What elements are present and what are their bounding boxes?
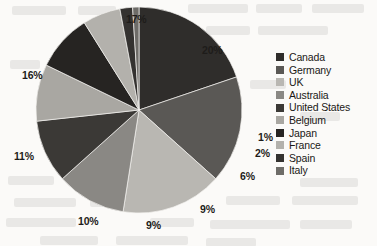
legend-label: Belgium [289, 114, 326, 127]
pct-label-canada: 20% [202, 44, 222, 56]
chart-legend: Canada Germany UK Australia United State… [276, 51, 350, 177]
pie-graphic [0, 0, 272, 246]
legend-swatch-icon [276, 66, 284, 74]
legend-label: Spain [289, 152, 315, 165]
legend-swatch-icon [276, 154, 284, 162]
legend-item-belgium: Belgium [276, 114, 350, 127]
pct-label-france: 6% [240, 170, 255, 182]
legend-swatch-icon [276, 141, 284, 149]
pct-label-italy: 1% [258, 131, 273, 143]
pie-chart-figure: 20% 1% 2% 6% 9% 9% 10% 11% 16% 17% Canad… [0, 0, 377, 246]
legend-item-japan: Japan [276, 127, 350, 140]
pct-label-uk: 16% [22, 69, 42, 81]
pct-label-spain: 2% [255, 147, 270, 159]
legend-swatch-icon [276, 167, 284, 175]
legend-item-uk: UK [276, 76, 350, 89]
legend-label: Germany [289, 64, 331, 77]
legend-swatch-icon [276, 78, 284, 86]
legend-swatch-icon [276, 53, 284, 61]
legend-label: Italy [289, 164, 308, 177]
legend-swatch-icon [276, 91, 284, 99]
legend-swatch-icon [276, 116, 284, 124]
legend-label: Australia [289, 89, 329, 102]
legend-item-italy: Italy [276, 164, 350, 177]
legend-item-germany: Germany [276, 64, 350, 77]
legend-item-united-states: United States [276, 101, 350, 114]
pct-label-japan: 9% [200, 203, 215, 215]
legend-label: Japan [289, 127, 317, 140]
legend-item-canada: Canada [276, 51, 350, 64]
pie-slices-svg [0, 0, 272, 246]
pct-label-germany: 17% [126, 13, 146, 25]
legend-item-spain: Spain [276, 152, 350, 165]
pct-label-australia: 11% [14, 150, 34, 162]
legend-label: UK [289, 76, 303, 89]
legend-label: France [289, 139, 321, 152]
legend-swatch-icon [276, 104, 284, 112]
pct-label-belgium: 9% [146, 219, 161, 231]
slice-group [36, 7, 242, 213]
legend-label: United States [289, 101, 350, 114]
legend-item-australia: Australia [276, 89, 350, 102]
legend-swatch-icon [276, 129, 284, 137]
pct-label-united-states: 10% [78, 215, 98, 227]
legend-item-france: France [276, 139, 350, 152]
legend-label: Canada [289, 51, 325, 64]
